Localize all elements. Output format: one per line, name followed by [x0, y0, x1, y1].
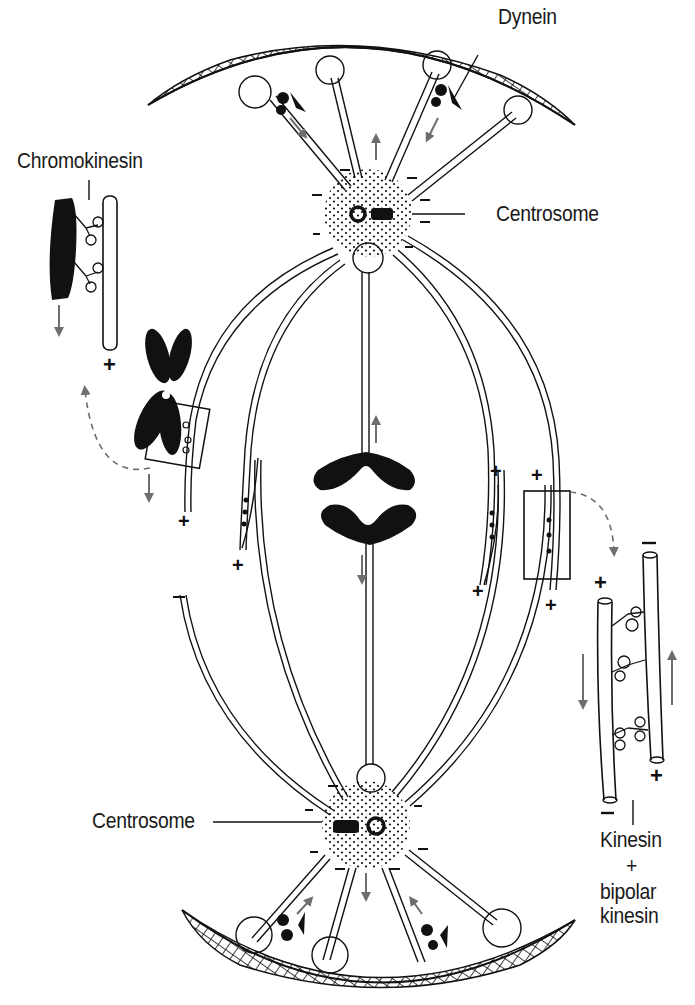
svg-text:+: + — [103, 352, 116, 377]
label-bipolar-kinesin: kinesin — [600, 905, 658, 927]
label-centrosome-top: Centrosome — [496, 203, 599, 225]
dynein-motors-bottom — [277, 912, 448, 950]
label-centrosome-bottom: Centrosome — [92, 810, 195, 832]
svg-text:+: + — [545, 594, 557, 616]
separating-chromatids — [313, 452, 416, 545]
mitotic-spindle-diagram: + + + + + + + — [0, 0, 695, 1005]
svg-text:+: + — [472, 580, 484, 602]
label-kinesin: Kinesin — [600, 829, 662, 851]
chromokinesin-inset: + — [50, 180, 117, 377]
svg-text:+: + — [232, 554, 244, 576]
svg-text:+: + — [650, 763, 663, 788]
motion-arrows-bottom — [297, 873, 422, 914]
label-dynein: Dynein — [498, 6, 557, 28]
svg-text:+: + — [594, 570, 607, 595]
inset-pointer-right — [570, 492, 614, 552]
svg-text:+: + — [531, 464, 543, 486]
label-chromokinesin: Chromokinesin — [17, 150, 143, 172]
x-chromosome — [127, 326, 197, 456]
label-bipolar: bipolar — [600, 881, 656, 903]
bipolar-kinesin-inset: + + — [583, 543, 672, 825]
dynein-motors-top — [276, 84, 462, 115]
centrosome-bottom — [213, 764, 428, 869]
svg-text:+: + — [178, 510, 190, 532]
label-kinesin-plus: + — [626, 855, 637, 877]
svg-text:+: + — [490, 460, 502, 482]
